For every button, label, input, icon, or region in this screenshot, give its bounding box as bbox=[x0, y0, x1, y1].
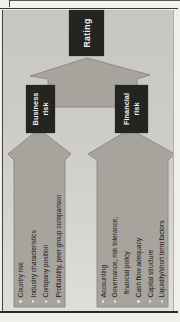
list-item-text: Cash flow adequacy bbox=[135, 237, 142, 296]
list-item-text: Country risk bbox=[17, 262, 24, 297]
list-item-text: Liquidity/short term factors bbox=[158, 220, 165, 297]
bullet-icon bbox=[102, 300, 105, 303]
rating-diagram-panel: Rating Business risk Financial risk Coun… bbox=[2, 10, 174, 311]
list-item: Accounting bbox=[97, 161, 109, 303]
bullet-icon bbox=[45, 300, 48, 303]
bullet-icon bbox=[32, 300, 35, 303]
list-item: Cash flow adequacy bbox=[133, 161, 145, 303]
upper-frame-corner bbox=[9, 0, 180, 7]
business-risk-label-line2: risk bbox=[41, 102, 51, 115]
financial-risk-label-line2: risk bbox=[132, 102, 142, 115]
list-item-continuation: financial policy bbox=[121, 161, 133, 303]
bullet-icon bbox=[114, 300, 117, 303]
list-item: Country risk bbox=[14, 161, 27, 303]
list-item-text: Capital structure bbox=[147, 249, 154, 297]
financial-risk-label-line1: Financial bbox=[122, 92, 132, 124]
rating-box: Rating bbox=[69, 10, 104, 56]
list-item: Profitability, peer group comparison bbox=[52, 161, 65, 303]
list-item: Industry characteristics bbox=[27, 161, 40, 303]
bullet-icon bbox=[19, 300, 22, 303]
list-item-text: financial policy bbox=[123, 251, 130, 294]
list-item: Liquidity/short term factors bbox=[156, 161, 168, 303]
list-item-text: Company position bbox=[42, 244, 49, 297]
list-item-text: Industry characteristics bbox=[30, 230, 37, 297]
business-risk-box: Business risk bbox=[26, 85, 55, 133]
financial-factors-list: Accounting Governance, risk tolerance, f… bbox=[97, 159, 168, 307]
bullet-icon bbox=[161, 300, 164, 303]
business-risk-label-line1: Business bbox=[31, 92, 41, 125]
list-item: Capital structure bbox=[144, 161, 156, 303]
bullet-icon bbox=[137, 300, 140, 303]
business-factors-list: Country risk Industry characteristics Co… bbox=[14, 159, 65, 307]
financial-risk-box: Financial risk bbox=[115, 85, 148, 133]
bullet-icon bbox=[149, 300, 152, 303]
list-item-text: Profitability, peer group comparison bbox=[55, 194, 62, 297]
scanned-diagram-page: { "colors": { "page_bg": "#f1efeb", "pan… bbox=[0, 0, 180, 322]
bottom-divider-line bbox=[0, 311, 178, 314]
bullet-icon bbox=[57, 300, 60, 303]
list-item-text: Governance, risk tolerance, bbox=[111, 216, 118, 296]
list-item-text: Accounting bbox=[100, 264, 107, 297]
list-item: Company position bbox=[40, 161, 53, 303]
rating-label: Rating bbox=[69, 10, 104, 56]
list-item: Governance, risk tolerance, bbox=[109, 161, 121, 303]
